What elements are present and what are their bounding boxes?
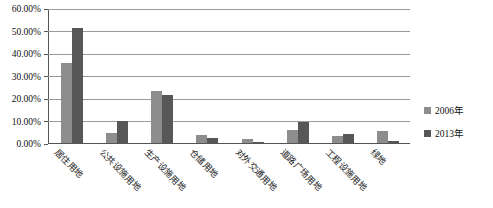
category-label: 对外交通用地 (232, 146, 279, 193)
chart-root: 0.00%10.00%20.00%30.00%40.00%50.00%60.00… (0, 0, 493, 208)
bar-group (275, 9, 320, 143)
y-tick-label: 0.00% (16, 139, 41, 149)
y-tick-label: 20.00% (12, 94, 41, 104)
bar-group (185, 9, 230, 143)
bar (151, 91, 162, 143)
bar (343, 134, 354, 143)
y-tick-label: 30.00% (12, 71, 41, 81)
category-label: 绿地 (368, 146, 390, 168)
y-tick-mark (44, 54, 48, 55)
legend-item-2006: 2006年 (424, 103, 490, 117)
bar (61, 63, 72, 143)
legend-item-2013: 2013年 (424, 126, 490, 140)
category-label: 道路广场用地 (278, 146, 325, 193)
legend-swatch-icon (424, 107, 431, 114)
legend-swatch-icon (424, 130, 431, 137)
y-tick-mark (44, 76, 48, 77)
bar-group (366, 9, 411, 143)
x-axis (48, 143, 410, 144)
bar (117, 121, 128, 144)
bar-group (140, 9, 185, 143)
y-tick-mark (44, 144, 48, 145)
bar-group (230, 9, 275, 143)
chart-legend: 2006年 2013年 (424, 103, 490, 149)
bar (388, 141, 399, 143)
bar (377, 131, 388, 143)
category-label: 仓储用地 (187, 146, 222, 181)
category-label: 生产设施用地 (142, 146, 189, 193)
bar (242, 139, 253, 143)
category-label: 工程设施用地 (323, 146, 370, 193)
legend-label: 2006年 (435, 103, 464, 117)
plot-area: 0.00%10.00%20.00%30.00%40.00%50.00%60.00… (48, 9, 410, 144)
y-tick-label: 60.00% (12, 4, 41, 14)
bars-layer (49, 9, 410, 143)
bar (207, 138, 218, 143)
category-label: 居住用地 (51, 146, 86, 181)
bar-group (49, 9, 94, 143)
bar (106, 133, 117, 143)
bar (72, 28, 83, 143)
bar-group (94, 9, 139, 143)
legend-label: 2013年 (435, 126, 464, 140)
bar-group (321, 9, 366, 143)
y-tick-mark (44, 9, 48, 10)
y-tick-label: 50.00% (12, 26, 41, 36)
bar (253, 142, 264, 143)
bar (298, 122, 309, 143)
bar (196, 135, 207, 143)
y-tick-mark (44, 121, 48, 122)
category-label: 公共设施用地 (97, 146, 144, 193)
category-axis-labels: 居住用地公共设施用地生产设施用地仓储用地对外交通用地道路广场用地工程设施用地绿地 (48, 146, 410, 208)
bar (162, 95, 173, 143)
y-tick-mark (44, 31, 48, 32)
y-tick-mark (44, 99, 48, 100)
y-tick-label: 10.00% (12, 116, 41, 126)
y-tick-label: 40.00% (12, 49, 41, 59)
bar (287, 130, 298, 143)
bar (332, 136, 343, 143)
